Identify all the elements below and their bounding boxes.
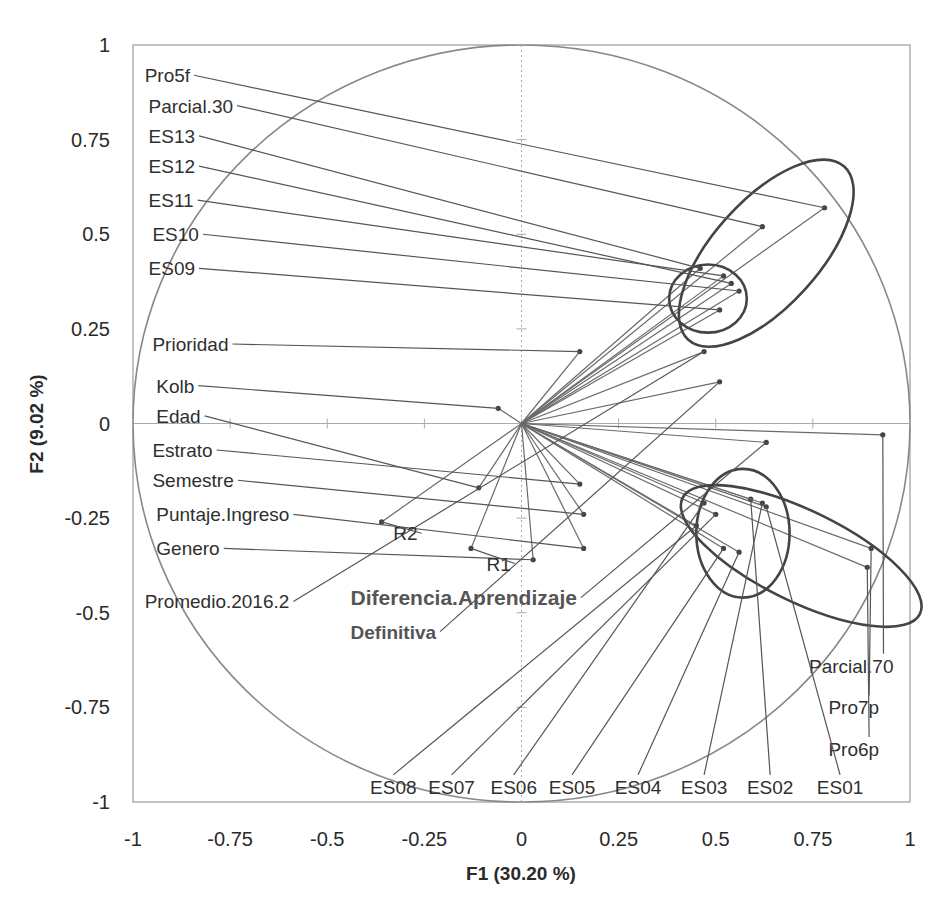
leader-edad [205, 416, 479, 488]
y-axis-title: F2 (9.02 %) [26, 374, 47, 473]
label-es09: ES09 [149, 258, 195, 279]
leader-es02 [751, 499, 770, 775]
cluster-ellipse-2 [663, 457, 940, 654]
y-tick-label: -0.5 [76, 602, 110, 624]
label-promedio.2016.2: Promedio.2016.2 [145, 591, 290, 612]
leader-es09 [199, 268, 720, 310]
label-diferencia.aprendizaje: Diferencia.Aprendizaje [351, 586, 577, 609]
vector-r2 [382, 424, 522, 522]
leader-semestre [238, 480, 584, 514]
label-r1: R1 [487, 554, 511, 575]
label-es05: ES05 [549, 777, 595, 798]
y-tick-label: -0.75 [64, 696, 110, 718]
y-tick-label: 0.75 [71, 129, 110, 151]
x-tick-label: -1 [124, 828, 142, 850]
vector-es03 [522, 424, 763, 503]
label-parcial.30: Parcial.30 [149, 96, 234, 117]
label-es11: ES11 [149, 190, 194, 211]
label-es02: ES02 [747, 777, 793, 798]
vector-es05 [522, 424, 724, 549]
label-pro7p: Pro7p [828, 697, 879, 718]
x-tick-label: -0.75 [207, 828, 253, 850]
y-tick-label: 1 [99, 34, 110, 56]
leader-pro5f [194, 75, 824, 207]
y-tick-label: -0.25 [64, 507, 110, 529]
leader-es10 [203, 234, 739, 291]
x-tick-label: 0.75 [793, 828, 832, 850]
leader-diferencia.aprendizaje [581, 442, 766, 597]
leader-es08 [393, 526, 696, 775]
vector-es13 [522, 268, 701, 423]
cluster-ellipses [649, 131, 940, 655]
leader-es13 [199, 136, 700, 268]
vector-es07 [522, 424, 716, 515]
label-es01: ES01 [817, 777, 863, 798]
variable-vectors [379, 205, 885, 570]
label-prioridad: Prioridad [152, 334, 228, 355]
label-puntaje.ingreso: Puntaje.Ingreso [156, 504, 289, 525]
x-axis-title: F1 (30.20 %) [466, 863, 576, 884]
label-parcial.70: Parcial.70 [809, 656, 894, 677]
leader-es05 [572, 548, 724, 774]
leader-es01 [766, 507, 840, 775]
leader-parcial.70 [883, 435, 884, 654]
vector-es10 [522, 291, 740, 423]
leader-definitiva [440, 382, 720, 632]
label-es07: ES07 [428, 777, 474, 798]
pca-correlation-circle-chart: -1-0.75-0.5-0.2500.250.50.75110.750.50.2… [0, 0, 943, 907]
x-tick-label: 1 [904, 828, 915, 850]
label-es10: ES10 [152, 224, 198, 245]
leader-prioridad [232, 344, 579, 352]
x-tick-label: 0.5 [702, 828, 730, 850]
leader-es03 [704, 503, 762, 775]
label-es04: ES04 [615, 777, 662, 798]
label-definitiva: Definitiva [351, 622, 437, 643]
leader-puntaje.ingreso [293, 514, 583, 548]
label-semestre: Semestre [152, 470, 233, 491]
label-es03: ES03 [681, 777, 727, 798]
vector-kolb [498, 408, 521, 423]
leader-es04 [638, 552, 739, 775]
label-es13: ES13 [149, 126, 195, 147]
x-tick-label: 0 [516, 828, 527, 850]
leader-es11 [198, 200, 724, 276]
y-tick-label: -1 [92, 791, 110, 813]
label-estrato: Estrato [152, 440, 212, 461]
cluster-ellipse-0 [649, 131, 884, 375]
label-es08: ES08 [370, 777, 416, 798]
vector-pro6p [522, 424, 868, 568]
y-tick-label: 0.5 [82, 223, 110, 245]
label-es12: ES12 [149, 156, 195, 177]
y-tick-label: 0.25 [71, 318, 110, 340]
x-tick-label: 0.25 [599, 828, 638, 850]
label-kolb: Kolb [156, 376, 194, 397]
label-pro6p: Pro6p [828, 739, 879, 760]
vector-es09 [522, 310, 720, 424]
x-tick-label: -0.25 [402, 828, 448, 850]
x-tick-label: -0.5 [310, 828, 344, 850]
y-tick-label: 0 [99, 413, 110, 435]
label-es06: ES06 [490, 777, 536, 798]
vector-parcial.30 [522, 227, 763, 424]
label-edad: Edad [156, 406, 200, 427]
label-genero: Genero [156, 538, 219, 559]
label-pro5f: Pro5f [145, 65, 191, 86]
leader-kolb [198, 386, 498, 409]
